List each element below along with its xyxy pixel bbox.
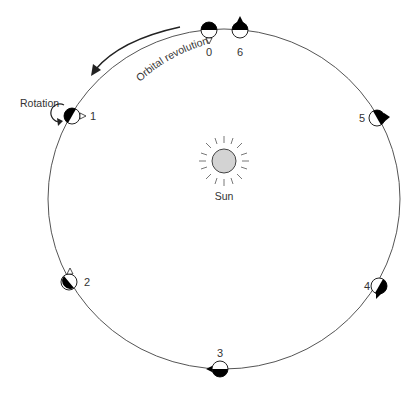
sun <box>199 136 249 186</box>
planet-position-1 <box>64 108 86 124</box>
planet-position-2 <box>61 268 77 290</box>
orbital-revolution-label: Orbital revolution <box>133 34 209 83</box>
planet-position-3 <box>206 361 228 377</box>
sun-label: Sun <box>215 190 234 202</box>
planet-position-4 <box>371 278 387 299</box>
orbit-diagram: Orbital revolution Rotation Sun <box>0 0 417 400</box>
planet-position-6 <box>232 16 248 38</box>
position-label-2: 2 <box>84 276 90 288</box>
position-label-0: 0 <box>206 46 212 58</box>
position-label-3: 3 <box>217 347 223 359</box>
position-label-1: 1 <box>90 110 96 122</box>
position-label-5: 5 <box>359 112 365 124</box>
position-label-4: 4 <box>364 280 370 292</box>
planet-position-5 <box>369 110 390 126</box>
position-label-6: 6 <box>237 46 243 58</box>
